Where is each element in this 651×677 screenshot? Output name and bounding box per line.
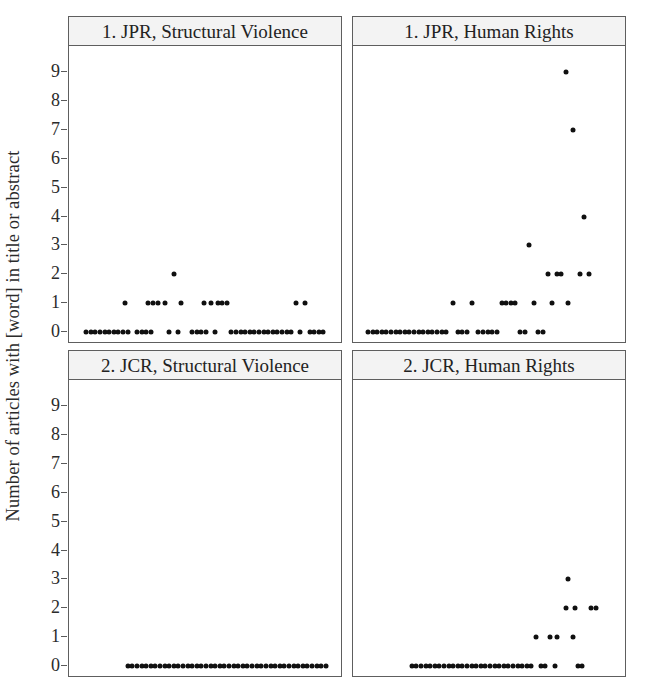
y-tick-label: 8: [34, 425, 60, 443]
data-point: [125, 330, 130, 335]
data-point: [582, 214, 587, 219]
data-point: [554, 635, 559, 640]
y-axis-label: Number of articles with [word] in title …: [3, 150, 24, 521]
y-tick-label: 3: [34, 569, 60, 587]
y-tick-mark: [61, 607, 67, 608]
y-tick-mark: [61, 187, 67, 188]
panel-jcr-structural-violence[interactable]: 2. JCR, Structural Violence: [68, 350, 342, 677]
data-point: [208, 301, 213, 306]
data-point: [155, 301, 160, 306]
panel-jpr-human-rights[interactable]: 1. JPR, Human Rights: [352, 16, 626, 343]
data-point: [559, 272, 564, 277]
panel-title: 1. JPR, Human Rights: [404, 22, 573, 41]
data-point: [534, 635, 539, 640]
y-tick-mark: [61, 302, 67, 303]
data-point: [527, 243, 532, 248]
data-point: [513, 301, 518, 306]
data-point: [593, 606, 598, 611]
data-point: [570, 635, 575, 640]
y-tick-mark: [61, 665, 67, 666]
panel-strip-jpr-structural-violence: 1. JPR, Structural Violence: [68, 16, 342, 46]
y-tick-mark: [61, 129, 67, 130]
y-tick-label: 6: [34, 483, 60, 501]
data-point: [564, 606, 569, 611]
data-point: [178, 301, 183, 306]
data-point: [543, 664, 548, 669]
panel-strip-jpr-human-rights: 1. JPR, Human Rights: [352, 16, 626, 46]
data-point: [176, 330, 181, 335]
panel-title: 2. JCR, Structural Violence: [101, 356, 309, 375]
y-axis-ticks-bottom-row: 9876543210: [30, 0, 60, 671]
y-tick-label: 7: [34, 454, 60, 472]
data-point: [550, 301, 555, 306]
y-tick-label: 0: [34, 656, 60, 674]
y-tick-mark: [61, 216, 67, 217]
y-tick-mark: [61, 71, 67, 72]
panel-title: 2. JCR, Human Rights: [403, 356, 575, 375]
data-point: [570, 128, 575, 133]
data-point: [494, 330, 499, 335]
data-point: [577, 272, 582, 277]
data-point: [213, 330, 218, 335]
data-point: [587, 272, 592, 277]
y-tick-label: 9: [34, 396, 60, 414]
data-point: [522, 330, 527, 335]
y-tick-mark: [61, 100, 67, 101]
data-point: [547, 635, 552, 640]
data-point: [204, 330, 209, 335]
y-tick-label: 2: [34, 598, 60, 616]
panel-title: 1. JPR, Structural Violence: [102, 22, 308, 41]
y-tick-mark: [61, 244, 67, 245]
y-tick-label: 5: [34, 512, 60, 530]
data-point: [580, 664, 585, 669]
plot-area-jpr-structural-violence: [69, 47, 341, 342]
data-point: [201, 301, 206, 306]
plot-area-jcr-human-rights: [353, 381, 625, 676]
data-point: [552, 664, 557, 669]
y-tick-mark: [61, 273, 67, 274]
data-point: [451, 301, 456, 306]
panel-jcr-human-rights[interactable]: 2. JCR, Human Rights: [352, 350, 626, 677]
plot-area-jpr-human-rights: [353, 47, 625, 342]
data-point: [171, 272, 176, 277]
data-point: [298, 330, 303, 335]
y-axis-label-container: Number of articles with [word] in title …: [0, 0, 26, 671]
data-point: [289, 330, 294, 335]
panel-strip-jcr-human-rights: 2. JCR, Human Rights: [352, 350, 626, 380]
plot-area-jcr-structural-violence: [69, 381, 341, 676]
data-point: [469, 301, 474, 306]
data-point: [464, 330, 469, 335]
y-tick-mark: [61, 636, 67, 637]
data-point: [529, 664, 534, 669]
data-point: [321, 330, 326, 335]
y-tick-label: 4: [34, 541, 60, 559]
data-point: [573, 606, 578, 611]
data-point: [293, 301, 298, 306]
data-point: [148, 330, 153, 335]
data-point: [566, 577, 571, 582]
data-point: [545, 272, 550, 277]
y-tick-mark: [61, 331, 67, 332]
y-tick-mark: [61, 405, 67, 406]
data-point: [303, 301, 308, 306]
y-tick-mark: [61, 521, 67, 522]
y-tick-mark: [61, 550, 67, 551]
data-point: [564, 70, 569, 75]
panel-strip-jcr-structural-violence: 2. JCR, Structural Violence: [68, 350, 342, 380]
data-point: [531, 301, 536, 306]
y-tick-mark: [61, 434, 67, 435]
data-point: [566, 301, 571, 306]
y-tick-mark: [61, 578, 67, 579]
data-point: [224, 301, 229, 306]
y-tick-mark: [61, 463, 67, 464]
y-tick-label: 1: [34, 627, 60, 645]
data-point: [323, 664, 328, 669]
y-tick-mark: [61, 158, 67, 159]
data-point: [444, 330, 449, 335]
y-tick-mark: [61, 492, 67, 493]
data-point: [162, 301, 167, 306]
data-point: [123, 301, 128, 306]
data-point: [540, 330, 545, 335]
panel-jpr-structural-violence[interactable]: 1. JPR, Structural Violence: [68, 16, 342, 343]
